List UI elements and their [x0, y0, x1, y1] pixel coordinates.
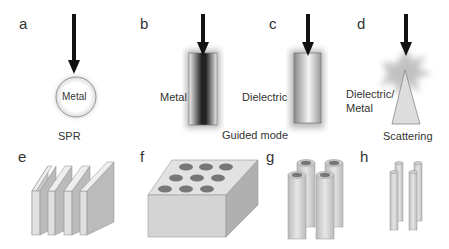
- metal-rod-icon: [189, 53, 217, 125]
- caption-scattering: Scattering: [383, 130, 433, 142]
- caption-guided-mode: Guided mode: [222, 129, 288, 141]
- arrow-icon: [404, 14, 408, 44]
- panel-b: [186, 14, 220, 128]
- arrow-icon: [306, 14, 310, 44]
- panel-letter-d: d: [357, 15, 365, 32]
- panel-letter-h: h: [360, 148, 368, 165]
- panel-letter-c: c: [269, 15, 277, 32]
- panel-letter-f: f: [140, 148, 144, 165]
- panel-d: [380, 14, 432, 124]
- panel-c: [290, 14, 324, 128]
- label-metal: Metal: [160, 91, 187, 103]
- label-dielectric-metal-2: Metal: [346, 102, 373, 114]
- panel-g-tubes: [288, 160, 343, 240]
- panel-f-block: [148, 160, 258, 237]
- panel-letter-b: b: [140, 15, 148, 32]
- panel-letter-e: e: [18, 148, 26, 165]
- panel-letter-g: g: [266, 148, 274, 165]
- diagram-canvas: [0, 0, 449, 249]
- sphere-label: Metal: [62, 91, 86, 102]
- label-dielectric-metal-1: Dielectric/: [346, 88, 394, 100]
- panel-a: [50, 14, 102, 123]
- label-dielectric: Dielectric: [242, 91, 287, 103]
- panel-h-rods: [390, 161, 422, 230]
- dielectric-rod-icon: [294, 53, 321, 123]
- caption-spr: SPR: [58, 130, 81, 142]
- arrowhead-icon: [400, 42, 412, 56]
- arrow-icon: [72, 14, 76, 62]
- arrow-icon: [201, 14, 205, 44]
- panel-letter-a: a: [19, 15, 27, 32]
- panel-e-slabs: [32, 162, 114, 235]
